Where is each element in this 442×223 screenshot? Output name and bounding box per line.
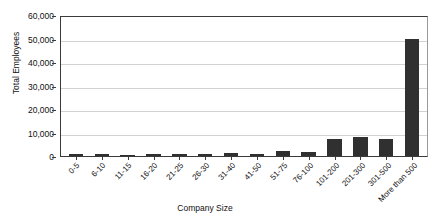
x-axis-tick-label: 31-40 — [217, 161, 238, 182]
bar-slot — [296, 17, 322, 156]
y-axis-tick-mark — [52, 87, 56, 88]
x-axis-tick-label: 41-50 — [243, 161, 264, 182]
bar-slot — [399, 17, 425, 156]
plot-area — [60, 16, 428, 157]
x-label-slot: More than 500 — [400, 159, 426, 205]
y-axis-tick-label: 40,000 — [0, 59, 54, 68]
y-axis-tick-label: 30,000 — [0, 83, 54, 92]
x-label-slot: 11-15 — [114, 159, 140, 205]
y-axis-tick-label: 60,000 — [0, 12, 54, 21]
x-label-slot: 51-75 — [270, 159, 296, 205]
y-axis-tick-label: 20,000 — [0, 106, 54, 115]
bar — [379, 139, 393, 156]
y-axis-tick-label: 50,000 — [0, 36, 54, 45]
y-axis-tick-label: 10,000 — [0, 130, 54, 139]
x-axis-tick-label: 51-75 — [269, 161, 290, 182]
y-axis-tick-mark — [52, 40, 56, 41]
bar-slot — [218, 17, 244, 156]
bar-slot — [347, 17, 373, 156]
x-axis-tick-label: 16-20 — [139, 161, 160, 182]
x-axis-tick-label: 0-5 — [67, 161, 82, 176]
y-axis-tick-mark — [52, 157, 56, 158]
x-axis-tick-label: 11-15 — [113, 161, 133, 181]
x-label-slot: 41-50 — [244, 159, 270, 205]
x-axis-tick-label: 26-30 — [191, 161, 212, 182]
bar-chart: Total Employees 010,00020,00030,00040,00… — [0, 0, 442, 223]
x-label-slot: 26-30 — [192, 159, 218, 205]
bar-slot — [244, 17, 270, 156]
y-axis-tick-mark — [52, 63, 56, 64]
x-axis-tick-label: 21-25 — [165, 161, 186, 182]
y-axis-tick-label: 0 — [0, 153, 54, 162]
bar-slot — [115, 17, 141, 156]
bar — [405, 39, 419, 157]
bar-slot — [192, 17, 218, 156]
bar-slot — [63, 17, 89, 156]
y-axis-tick-mark — [52, 110, 56, 111]
bar-slot — [270, 17, 296, 156]
x-axis-tick-labels: 0-56-1011-1516-2021-2526-3031-4041-5051-… — [60, 159, 428, 205]
x-label-slot: 0-5 — [62, 159, 88, 205]
x-axis-title: Company Size — [60, 203, 350, 213]
bar — [353, 137, 367, 156]
bar-slot — [89, 17, 115, 156]
y-axis-tick-mark — [52, 134, 56, 135]
bar-slot — [141, 17, 167, 156]
x-label-slot: 6-10 — [88, 159, 114, 205]
bar-slot — [373, 17, 399, 156]
x-axis-tick-label: 6-10 — [90, 161, 108, 179]
bar-slot — [166, 17, 192, 156]
y-axis-tick-mark — [52, 16, 56, 17]
x-label-slot: 31-40 — [218, 159, 244, 205]
bar-series — [61, 17, 427, 156]
bar — [327, 139, 341, 156]
x-label-slot: 21-25 — [166, 159, 192, 205]
bar-slot — [322, 17, 348, 156]
x-label-slot: 16-20 — [140, 159, 166, 205]
